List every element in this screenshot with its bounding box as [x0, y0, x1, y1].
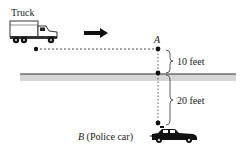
distance-10-feet-label: 10 feet: [177, 57, 205, 67]
truck-label: Truck: [11, 8, 35, 18]
brace-10-feet-icon: [166, 50, 173, 73]
distance-20-feet-label: 20 feet: [177, 96, 205, 106]
point-a-dot: [156, 47, 161, 52]
direction-arrow-icon: [84, 28, 108, 38]
point-b-dot: [156, 121, 161, 126]
point-b-label: B (Police car): [78, 132, 133, 142]
point-a-label: A: [154, 35, 160, 45]
truck-position-dot: [34, 47, 38, 51]
intersection-dot: [156, 71, 161, 76]
police-car-icon: [150, 126, 197, 143]
road-band: [20, 74, 236, 81]
truck-icon: [10, 21, 57, 43]
brace-20-feet-icon: [166, 75, 173, 125]
point-b-letter: B: [78, 131, 84, 142]
point-b-description: (Police car): [87, 131, 133, 142]
